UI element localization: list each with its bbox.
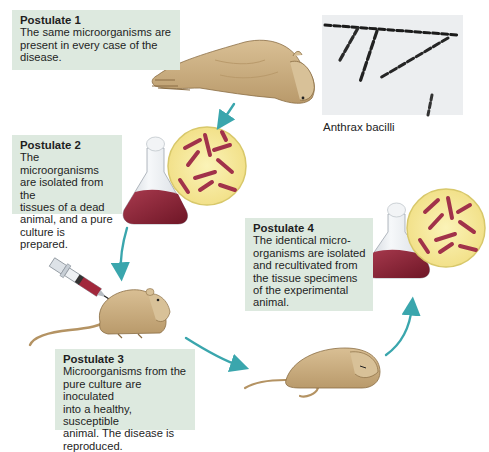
postulate-4-label: Postulate 4: [253, 222, 366, 234]
postulate-1-box: Postulate 1 The same microorganisms are …: [12, 10, 180, 70]
anthrax-photo: [322, 15, 463, 115]
arrow-sheep-to-flask: [222, 104, 234, 122]
anthrax-photo-caption: Anthrax bacilli: [323, 121, 395, 133]
postulate-1-text: The same microorganisms are present in e…: [20, 26, 173, 63]
postulate-2-box: Postulate 2 The microorganisms are isola…: [12, 135, 122, 214]
postulate-1-label: Postulate 1: [20, 14, 173, 26]
bacteria-magnified-circle-recultivated: [407, 189, 485, 267]
postulate-2-text: The microorganisms are isolated from the…: [20, 151, 115, 250]
dead-mouse-illustration: [245, 348, 380, 397]
arrow-flask-to-mouse: [121, 228, 127, 272]
healthy-mouse-illustration: [30, 289, 170, 346]
postulate-3-box: Postulate 3 Microorganisms from the pure…: [55, 349, 195, 430]
postulate-4-text: The identical micro- organisms are isola…: [253, 234, 366, 308]
postulate-2-label: Postulate 2: [20, 139, 115, 151]
postulate-3-label: Postulate 3: [63, 353, 188, 365]
postulate-4-box: Postulate 4 The identical micro- organis…: [245, 218, 373, 311]
postulate-3-text: Microorganisms from the pure culture are…: [63, 365, 188, 452]
bacteria-magnified-circle: [168, 127, 246, 205]
arrow-dead-mouse-to-flask: [386, 306, 412, 355]
